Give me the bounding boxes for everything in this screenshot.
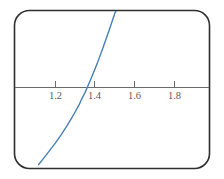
graph-screenshot: 1.2 1.4 1.6 1.8 (0, 0, 224, 179)
plot-canvas: 1.2 1.4 1.6 1.8 (0, 0, 224, 179)
x-tick-label-3: 1.6 (128, 90, 141, 101)
x-tick-label-2: 1.4 (88, 90, 102, 101)
x-tick-label-4: 1.8 (168, 90, 181, 101)
x-tick-label-1: 1.2 (49, 90, 62, 101)
